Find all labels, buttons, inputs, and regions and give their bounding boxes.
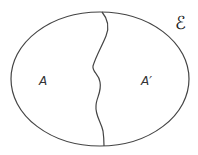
set-a-complement-label: A′ xyxy=(140,74,152,88)
universal-set-ellipse xyxy=(11,12,189,146)
set-a-label: A xyxy=(38,74,47,88)
complement-boundary-line xyxy=(93,12,108,146)
universal-set-label: ℰ xyxy=(175,12,186,33)
venn-diagram: A A′ ℰ xyxy=(0,0,198,155)
